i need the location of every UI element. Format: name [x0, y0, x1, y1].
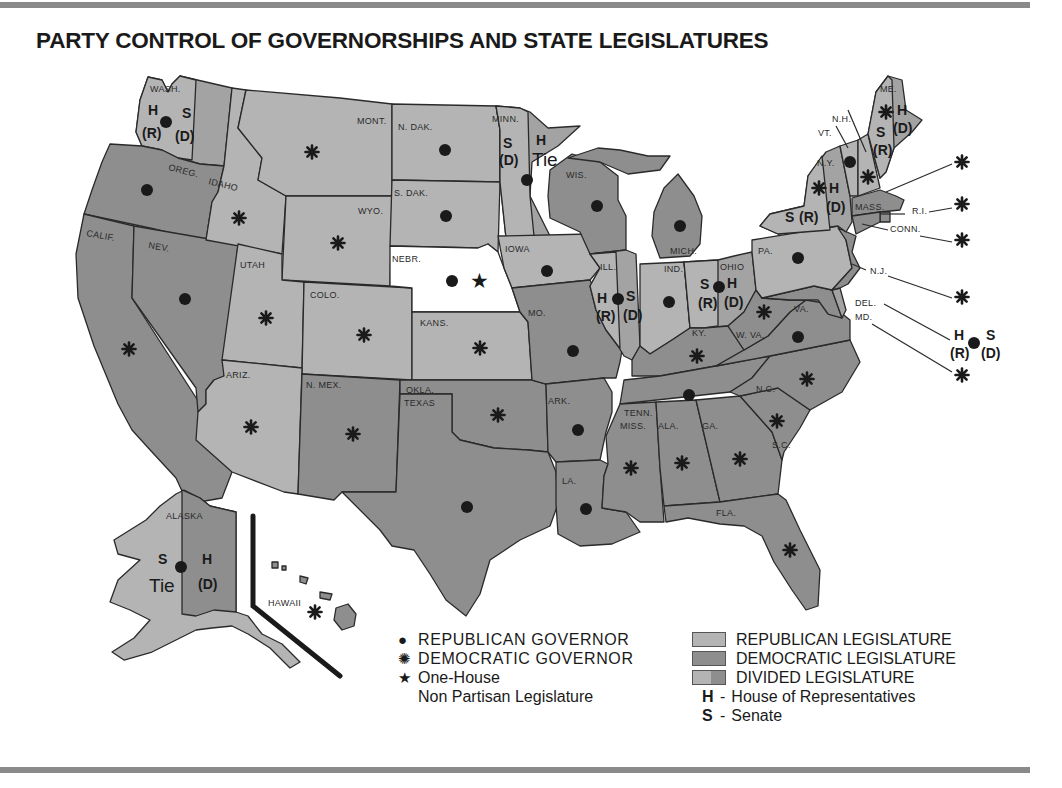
legend-label: House of Representatives: [731, 687, 915, 706]
svg-text:S: S: [876, 124, 885, 140]
dem-gov-me: [880, 106, 893, 119]
legend-label: One-House: [418, 668, 500, 687]
legend-label: REPUBLICAN GOVERNOR: [418, 630, 629, 649]
rep-gov-mich: [674, 220, 686, 232]
label-va: VA.: [794, 304, 809, 314]
svg-text:(D): (D): [981, 345, 1000, 361]
label-nmex: N. MEX.: [306, 380, 342, 390]
hawaii-island-oahu: [300, 576, 308, 584]
dem-gov-ga: [734, 453, 747, 466]
svg-text:(R): (R): [950, 345, 969, 361]
label-fla: FLA.: [716, 508, 736, 518]
svg-text:S: S: [700, 276, 709, 292]
dem-gov-fla: [784, 544, 797, 557]
label-ga: GA.: [702, 421, 718, 431]
dem-gov-nc: [801, 373, 814, 386]
dem-gov-calif: [123, 343, 136, 356]
svg-text:(R): (R): [596, 308, 615, 324]
label-wash: WASH.: [150, 84, 181, 94]
legend-label: Senate: [731, 706, 782, 725]
svg-text:(D): (D): [175, 128, 194, 144]
label-ark: ARK.: [548, 396, 570, 406]
rep-gov-nev: [179, 293, 191, 305]
dem-gov-colo: [358, 329, 371, 342]
rep-gov-nebr: [446, 275, 458, 287]
dem-gov-nj: [956, 291, 969, 304]
dem-gov-miss: [625, 462, 638, 475]
rep-gov-ohio: [713, 281, 725, 293]
label-mich: MICH.: [670, 246, 697, 256]
state-minn-west-half: [496, 106, 534, 238]
svg-text:S: S: [182, 105, 191, 121]
label-tenn: TENN.: [624, 408, 653, 418]
label-mass: MASS.: [855, 202, 885, 212]
label-mo: MO.: [528, 308, 546, 318]
svg-text:(D): (D): [826, 199, 845, 215]
label-colo: COLO.: [310, 290, 340, 300]
divided-legislature-swatch-icon: [692, 670, 726, 685]
rep-gov-pa: [792, 252, 804, 264]
label-pa: PA.: [758, 246, 773, 256]
dem-gov-mass: [956, 156, 969, 169]
legend-label: DEMOCRATIC LEGISLATURE: [736, 649, 956, 668]
state-miss: [602, 402, 664, 522]
legend-label: REPUBLICAN LEGISLATURE: [736, 630, 952, 649]
label-ala: ALA.: [658, 421, 679, 431]
label-wyo: WYO.: [358, 206, 383, 216]
label-nebr: NEBR.: [392, 254, 421, 264]
rep-gov-alaska: [175, 561, 187, 573]
svg-text:S: S: [986, 327, 995, 343]
dem-gov-ariz: [245, 421, 258, 434]
democratic-legislature-swatch-icon: [692, 651, 726, 666]
legend-governors: ● REPUBLICAN GOVERNOR ✺ DEMOCRATIC GOVER…: [398, 630, 634, 706]
label-texas: TEXAS: [404, 398, 435, 408]
senate-abbr: S: [702, 706, 720, 725]
label-ill: ILL.: [600, 262, 616, 272]
svg-text:S: S: [158, 551, 167, 567]
label-iowa: IOWA: [505, 244, 530, 254]
dem-gov-ala: [676, 457, 689, 470]
house-abbr: H: [702, 687, 720, 706]
label-nh: N.H.: [832, 114, 851, 124]
democratic-governor-star-icon: ✺: [398, 649, 418, 668]
label-nc: N.C.: [756, 384, 775, 394]
svg-text:(R): (R): [698, 295, 717, 311]
svg-text:H: H: [897, 102, 907, 118]
rep-gov-texas: [461, 501, 473, 513]
label-conn: CONN.: [890, 224, 921, 234]
state-conn: [852, 212, 880, 234]
dem-gov-kans: [474, 342, 487, 355]
legend-label: DIVIDED LEGISLATURE: [736, 668, 914, 687]
rep-gov-va: [792, 331, 804, 343]
svg-text:(R): (R): [873, 142, 892, 158]
dem-gov-wva: [758, 306, 771, 319]
label-minn: MINN.: [492, 114, 519, 124]
rep-gov-ark: [572, 424, 584, 436]
label-ariz: ARIZ.: [226, 370, 251, 380]
legend-democratic-governor: ✺ DEMOCRATIC GOVERNOR: [398, 649, 634, 668]
rep-gov-ind: [663, 296, 675, 308]
label-kans: KANS.: [420, 318, 449, 328]
state-ohio-west-half: [684, 260, 718, 328]
label-sdak: S. DAK.: [394, 188, 428, 198]
svg-text:(D): (D): [499, 152, 518, 168]
rep-gov-wis: [591, 200, 603, 212]
dem-gov-nh: [862, 171, 875, 184]
rep-gov-ndak: [439, 144, 451, 156]
rep-gov-mo: [567, 345, 579, 357]
svg-text:S: S: [503, 135, 512, 151]
rep-gov-la: [580, 503, 592, 515]
bottom-rule: [0, 767, 1030, 773]
svg-text:Tie: Tie: [149, 575, 175, 596]
svg-text:H: H: [829, 180, 839, 196]
dem-gov-conn: [956, 234, 969, 247]
legend-divided-legislature: DIVIDED LEGISLATURE: [692, 668, 956, 687]
dem-gov-mont: [306, 146, 319, 159]
svg-text:(D): (D): [893, 120, 912, 136]
label-ind: IND.: [664, 264, 683, 274]
rep-gov-tenn: [683, 389, 695, 401]
label-utah: UTAH: [240, 260, 265, 270]
svg-text:(R): (R): [142, 125, 161, 141]
label-alaska: ALASKA: [166, 511, 203, 521]
svg-text:H: H: [727, 275, 737, 291]
